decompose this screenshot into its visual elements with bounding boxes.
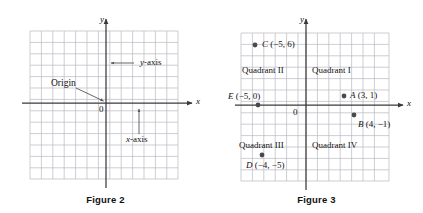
origin-callout-label: Origin bbox=[51, 79, 76, 89]
x-axis-callout-suffix: -axis bbox=[130, 134, 148, 144]
point-coords-a: (3, 1) bbox=[358, 90, 378, 100]
point-letter-a: A bbox=[350, 90, 356, 100]
figure-3-graphic bbox=[211, 0, 422, 213]
figure-3-caption: Figure 3 bbox=[211, 194, 422, 205]
point-label-a: A (3, 1) bbox=[350, 91, 377, 100]
y-axis-callout-label: y-axis bbox=[140, 58, 162, 67]
point-letter-c: C bbox=[262, 39, 268, 49]
figure-2-y-axis-variable: y bbox=[100, 15, 104, 24]
figure-3-panel: x y 0 Quadrant I Quadrant II Quadrant II… bbox=[211, 0, 422, 213]
point-marker-e bbox=[256, 103, 261, 108]
point-coords-c: (−5, 6) bbox=[270, 39, 295, 49]
point-coords-d: (−4, −5) bbox=[255, 160, 285, 170]
point-label-e: E (−5, 0) bbox=[228, 92, 260, 101]
point-coords-b: (4, −1) bbox=[366, 119, 391, 129]
quadrant-1-label: Quadrant I bbox=[312, 66, 351, 75]
point-letter-e: E bbox=[228, 91, 234, 101]
figure-2-origin-tick-label: 0 bbox=[99, 105, 104, 114]
point-marker-b bbox=[352, 113, 357, 118]
figure-2-x-axis-variable: x bbox=[196, 97, 200, 106]
figure-3-origin-tick-label: 0 bbox=[293, 108, 298, 117]
point-marker-a bbox=[342, 94, 347, 99]
figure-2-graphic bbox=[0, 0, 211, 213]
figure-2-grid bbox=[30, 31, 178, 179]
point-label-d: D (−4, −5) bbox=[246, 161, 284, 170]
point-marker-c bbox=[253, 43, 258, 48]
quadrant-2-label: Quadrant II bbox=[242, 66, 284, 75]
y-axis-callout-suffix: -axis bbox=[144, 57, 162, 67]
figure-3-x-axis-variable: x bbox=[407, 99, 411, 108]
x-axis-callout-label: x-axis bbox=[126, 135, 148, 144]
figure-3-grid bbox=[241, 33, 389, 181]
point-coords-e: (−5, 0) bbox=[236, 91, 261, 101]
quadrant-3-label: Quadrant III bbox=[239, 141, 284, 150]
point-letter-b: B bbox=[358, 119, 364, 129]
figure-2-caption: Figure 2 bbox=[0, 194, 211, 205]
point-label-c: C (−5, 6) bbox=[262, 40, 295, 49]
point-marker-d bbox=[260, 153, 265, 158]
point-label-b: B (4, −1) bbox=[358, 120, 390, 129]
point-letter-d: D bbox=[246, 160, 253, 170]
figure-3-y-axis-variable: y bbox=[300, 15, 304, 24]
quadrant-4-label: Quadrant IV bbox=[312, 141, 357, 150]
figure-2-panel: x y 0 Origin y-axis x-axis Figure 2 bbox=[0, 0, 211, 213]
